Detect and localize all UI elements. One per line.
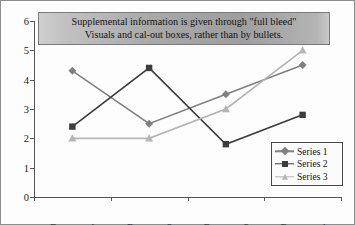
- square-data-point: [69, 123, 75, 129]
- x-axis-category-label: Category 2: [126, 222, 172, 225]
- chart-legend: Series 1 Series 2 Series 3: [271, 142, 343, 186]
- square-data-point: [223, 141, 229, 147]
- x-axis-category-label: Category 4: [279, 222, 325, 225]
- y-axis-tick-label: 4: [24, 74, 29, 85]
- square-data-point: [299, 112, 305, 118]
- x-axis-category-label: Category 3: [203, 222, 249, 225]
- diamond-data-point: [222, 90, 230, 98]
- x-axis-category-label: Category 1: [49, 222, 95, 225]
- legend-item[interactable]: Series 3: [275, 171, 339, 183]
- legend-item-label: Series 3: [297, 171, 328, 182]
- y-axis-tick-label: 3: [24, 104, 29, 115]
- x-axis-tick: [341, 197, 342, 201]
- chart-container: Supplemental information is given throug…: [0, 0, 355, 225]
- diamond-marker-icon: [275, 146, 294, 156]
- series-line: [72, 65, 302, 124]
- y-axis-tick-label: 1: [24, 162, 29, 173]
- square-marker-icon: [275, 159, 294, 169]
- legend-item[interactable]: Series 1: [275, 145, 339, 157]
- y-axis-tick-label: 5: [24, 45, 29, 56]
- legend-item[interactable]: Series 2: [275, 158, 339, 170]
- x-axis-tick: [188, 197, 189, 201]
- triangle-data-point: [299, 46, 307, 53]
- y-axis-tick-label: 0: [24, 192, 29, 203]
- x-axis-tick: [111, 197, 112, 201]
- triangle-marker-icon: [275, 172, 294, 182]
- x-axis-tick: [34, 197, 35, 201]
- legend-item-label: Series 2: [297, 158, 328, 169]
- series-line: [72, 68, 302, 144]
- square-data-point: [146, 65, 152, 71]
- x-axis-tick: [264, 197, 265, 201]
- diamond-data-point: [299, 61, 307, 69]
- legend-item-label: Series 1: [297, 146, 328, 157]
- y-axis-tick-label: 2: [24, 133, 29, 144]
- y-axis-tick-label: 6: [24, 16, 29, 27]
